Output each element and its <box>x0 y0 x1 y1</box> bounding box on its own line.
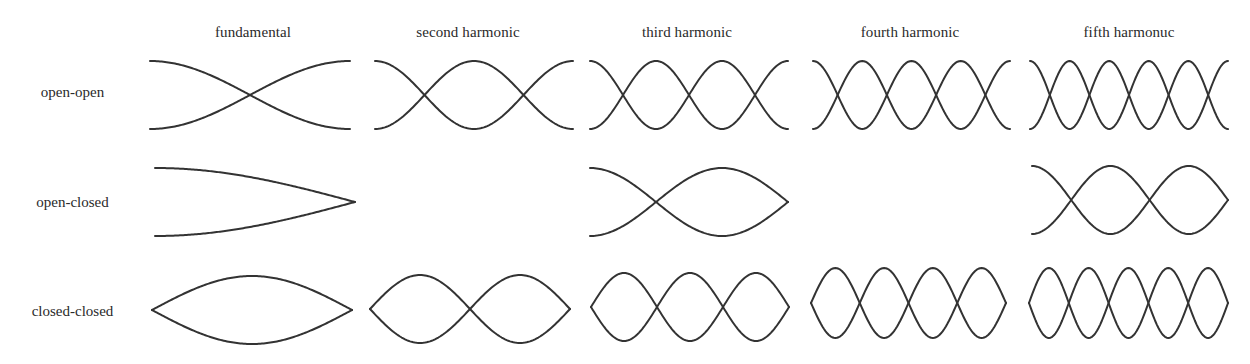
wave-curve-upper <box>152 276 352 310</box>
wave-curve-upper <box>155 168 355 202</box>
standing-wave-open-open-h4 <box>813 61 1010 129</box>
wave-curve-lower <box>370 275 570 343</box>
standing-wave-open-open-h5 <box>1030 61 1228 129</box>
wave-curve-lower <box>375 61 573 129</box>
wave-curve-upper <box>375 61 573 129</box>
standing-wave-open-open-h2 <box>375 61 573 129</box>
standing-wave-open-closed-h3 <box>590 168 788 236</box>
standing-wave-grid <box>0 0 1250 364</box>
standing-wave-closed-closed-h5 <box>1029 268 1228 338</box>
standing-wave-closed-closed-h4 <box>811 268 1006 338</box>
wave-curve-lower <box>591 273 789 341</box>
standing-wave-closed-closed-h3 <box>591 273 789 341</box>
standing-wave-open-closed-h1 <box>155 168 355 236</box>
standing-wave-open-open-h3 <box>590 61 788 129</box>
wave-curve-lower <box>150 61 350 129</box>
wave-curve-lower <box>155 202 355 236</box>
wave-curve-lower <box>152 310 352 344</box>
standing-wave-closed-closed-h2 <box>370 275 570 343</box>
wave-curve-upper <box>813 61 1010 129</box>
standing-wave-open-open-h1 <box>150 61 350 129</box>
standing-wave-open-closed-h5 <box>1032 166 1228 234</box>
wave-curve-lower <box>590 61 788 129</box>
standing-wave-closed-closed-h1 <box>152 276 352 344</box>
wave-curve-lower <box>811 268 1006 338</box>
wave-curve-upper <box>591 273 789 341</box>
wave-curve-lower <box>813 61 1010 129</box>
